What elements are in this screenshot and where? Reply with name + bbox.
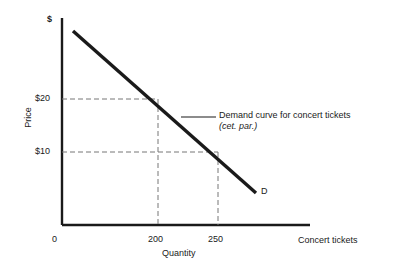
y-axis-title: Price xyxy=(23,103,34,133)
x-axis-tick-label-0: 0 xyxy=(52,234,57,245)
y-axis-tick-label-20: $20 xyxy=(35,93,50,104)
demand-curve-label: D xyxy=(261,186,268,197)
x-axis-tick-label-250: 250 xyxy=(208,234,223,245)
x-axis-title: Quantity xyxy=(162,248,196,259)
demand-curve-chart xyxy=(0,0,394,272)
demand-curve-annotation: Demand curve for concert tickets (cet. p… xyxy=(219,110,351,132)
annotation-line-2: (cet. par.) xyxy=(219,121,351,132)
plot-background xyxy=(0,0,394,272)
x-axis-tick-label-200: 200 xyxy=(148,234,163,245)
y-axis-tick-label-10: $10 xyxy=(35,146,50,157)
x-axis-unit-label: Concert tickets xyxy=(298,235,358,246)
y-axis-unit-label: $ xyxy=(47,14,52,25)
chart-figure: Price $ $20 $10 0 200 250 Quantity Conce… xyxy=(0,0,394,272)
annotation-line-1: Demand curve for concert tickets xyxy=(219,110,351,121)
